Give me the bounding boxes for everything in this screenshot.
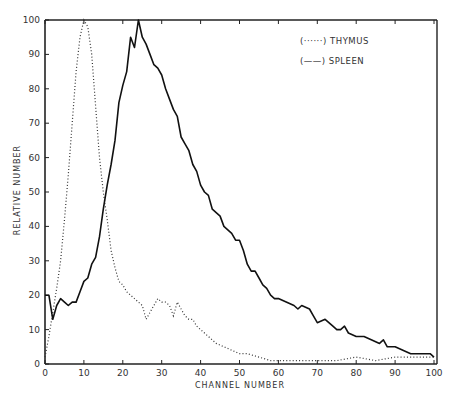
x-tick-label: 100: [425, 368, 442, 378]
legend-item-thymus: (······) THYMUS: [300, 36, 369, 46]
x-tick-label: 90: [389, 368, 401, 378]
y-tick-label: 90: [29, 49, 41, 59]
x-tick-label: 50: [234, 368, 246, 378]
y-tick-label: 50: [29, 187, 41, 197]
plot-frame: [45, 20, 437, 364]
y-tick-label: 80: [29, 84, 41, 94]
y-tick-label: 30: [29, 256, 41, 266]
thymus-series-line: [45, 20, 434, 361]
x-tick-label: 20: [117, 368, 129, 378]
y-tick-label: 70: [29, 118, 41, 128]
x-tick-label: 10: [78, 368, 90, 378]
spleen-series-line: [45, 20, 434, 357]
legend: (······) THYMUS (——) SPLEEN: [300, 36, 369, 66]
y-axis-title: RELATIVE NUMBER: [13, 145, 22, 235]
y-tick-label: 10: [29, 325, 41, 335]
line-chart: 0102030405060708090100 01020304050607080…: [0, 0, 452, 393]
y-tick-label: 60: [29, 153, 41, 163]
x-tick-label: 80: [350, 368, 362, 378]
y-tick-label: 40: [29, 221, 41, 231]
x-tick-label: 30: [156, 368, 168, 378]
x-tick-label: 60: [273, 368, 285, 378]
legend-item-spleen: (——) SPLEEN: [300, 56, 364, 66]
x-axis-title: CHANNEL NUMBER: [195, 381, 285, 390]
x-axis: 0102030405060708090100: [42, 20, 443, 378]
y-tick-label: 20: [29, 290, 41, 300]
x-tick-label: 40: [195, 368, 207, 378]
y-tick-label: 100: [23, 15, 40, 25]
x-tick-label: 0: [42, 368, 48, 378]
y-tick-label: 0: [34, 359, 40, 369]
x-tick-label: 70: [312, 368, 324, 378]
